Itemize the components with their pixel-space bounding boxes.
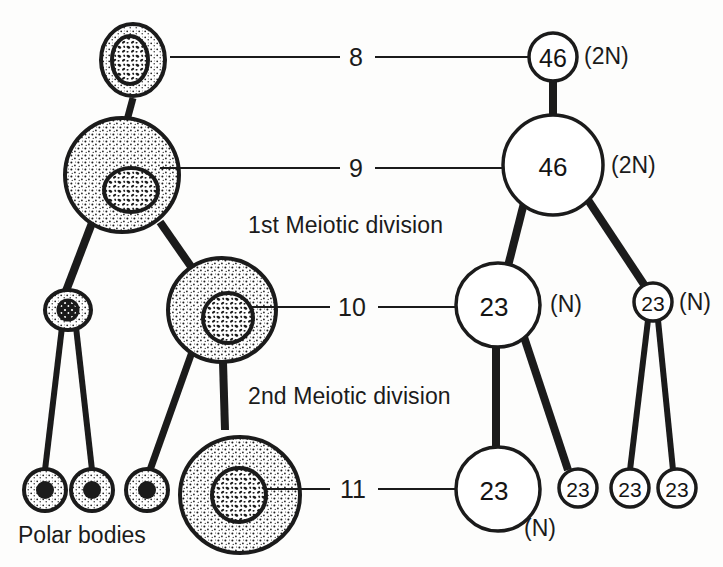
- cell-primary-oocyte: [65, 118, 179, 232]
- circle-23-polar-body-fourth: 23: [658, 469, 696, 507]
- leader-label-9: 9: [349, 156, 363, 181]
- circle-23-polar-body-first: 23: [634, 283, 672, 321]
- connector-polarbody1-to-polarbody-b: [76, 327, 92, 470]
- connector-46-to-23-large: [508, 203, 524, 266]
- ploidy-label-primary-oocyte: (2N): [611, 154, 656, 177]
- cell-oogonium: [101, 24, 165, 96]
- connector-secondary-to-ovum: [223, 362, 225, 430]
- circle-46-oogonium-value: 46: [539, 44, 567, 72]
- nucleus-oogonium: [112, 36, 148, 84]
- circle-23-polar-body-fourth-value: 23: [665, 478, 688, 501]
- leader-label-8: 8: [349, 45, 363, 70]
- leader-label-11: 11: [340, 477, 366, 502]
- circle-23-secondary-oocyte: 23: [456, 263, 540, 347]
- circle-23-ovum-value: 23: [480, 476, 509, 506]
- stage-label-first-meiotic-division: 1st Meiotic division: [248, 214, 443, 237]
- circle-46-primary-oocyte: 46: [503, 115, 603, 215]
- stage-label-second-meiotic-division: 2nd Meiotic division: [248, 385, 451, 408]
- connector-23-to-23-small: [524, 337, 568, 470]
- nucleus-secondary-oocyte: [203, 293, 253, 343]
- cell-polar-body-b: [71, 469, 113, 511]
- circle-46-primary-oocyte-value: 46: [539, 152, 568, 182]
- circle-23-polar-body-third: 23: [611, 469, 649, 507]
- connector-23n-to-23-right: [658, 320, 673, 470]
- connector-secondary-to-polarbody-c: [150, 352, 192, 470]
- circle-23-polar-body-first-value: 23: [641, 292, 664, 315]
- oogenesis-diagram: 46 46 23 23 23 23 23: [0, 0, 723, 567]
- ploidy-label-ovum: (N): [524, 517, 556, 540]
- cell-ovum: [180, 437, 300, 553]
- connector-46-to-23-small: [588, 200, 645, 286]
- circle-23-polar-body-second: 23: [559, 469, 597, 507]
- cell-secondary-oocyte: [168, 258, 276, 362]
- cell-polar-body-first: [45, 290, 91, 330]
- ploidy-label-secondary-oocyte: (N): [550, 293, 582, 316]
- polar-bodies-label: Polar bodies: [18, 524, 146, 547]
- nucleus-ovum: [212, 468, 266, 522]
- circle-23-polar-body-second-value: 23: [566, 478, 589, 501]
- cell-polar-body-c: [126, 469, 168, 511]
- leader-label-10: 10: [338, 295, 366, 320]
- ploidy-label-oogonium: (2N): [584, 45, 629, 68]
- circle-46-oogonium: 46: [529, 33, 577, 81]
- connector-23n-to-23-left: [630, 320, 648, 470]
- nucleus-polar-body-first: [58, 300, 78, 320]
- ploidy-label-polar-body-first: (N): [679, 291, 711, 314]
- nucleus-primary-oocyte: [104, 168, 158, 212]
- cell-polar-body-a: [24, 469, 66, 511]
- connector-primary-to-polarbody1: [66, 223, 92, 291]
- connector-primary-to-secondary: [160, 222, 192, 268]
- connector-polarbody1-to-polarbody-a: [45, 327, 62, 470]
- circle-23-secondary-oocyte-value: 23: [480, 292, 509, 322]
- circle-23-polar-body-third-value: 23: [618, 478, 641, 501]
